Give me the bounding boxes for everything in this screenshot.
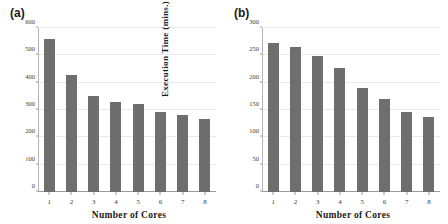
y-tick-label: 300 [249,18,259,25]
y-tick-label: 300 [25,100,35,107]
figure-two-panel-bar-charts: (a) Execution Time (s) 01002003004005006… [0,0,448,224]
x-tick-label: 7 [405,198,409,206]
x-tick-mark [273,192,274,195]
y-tick-label: 200 [25,127,35,134]
bar [401,112,412,192]
x-axis-title-b: Number of Cores [264,210,442,220]
x-tick-label: 2 [294,198,298,206]
panel-b: (b) Execution Time (mins.) 0501001502002… [224,0,448,224]
y-tick-label: 250 [249,45,259,52]
x-tick-mark [71,192,72,195]
y-axis-title-b: Execution Time (mins.) [160,0,174,124]
x-tick-mark [406,192,407,195]
x-tick-mark [138,192,139,195]
x-tick-label: 4 [114,198,118,206]
x-tick-mark [295,192,296,195]
y-tick-label: 150 [249,100,259,107]
x-tick-label: 7 [181,198,185,206]
x-tick-label: 8 [427,198,431,206]
x-tick-mark [428,192,429,195]
y-tick-label: 50 [253,154,260,161]
bars-b: 12345678 [262,28,440,192]
bar [110,102,121,192]
x-tick-mark [115,192,116,195]
bar [334,68,345,192]
bar-group: 1 [38,28,60,192]
bar [133,104,144,192]
y-tick-label: 600 [25,18,35,25]
bars-a: 12345678 [38,28,216,192]
x-tick-mark [339,192,340,195]
bar [199,119,210,192]
x-tick-label: 8 [203,198,207,206]
bar-group: 3 [83,28,105,192]
y-tick-label: 100 [249,127,259,134]
x-tick-label: 6 [159,198,163,206]
panel-label-a: (a) [10,6,25,20]
x-tick-mark [182,192,183,195]
y-tick-label: 100 [25,154,35,161]
y-tick-label: 0 [32,182,35,189]
x-tick-mark [93,192,94,195]
x-tick-mark [384,192,385,195]
plot-area-a: 0100200300400500600 12345678 [38,28,216,192]
bar-group: 2 [60,28,82,192]
x-tick-label: 1 [47,198,51,206]
bar [268,43,279,192]
x-axis-title-a: Number of Cores [40,210,218,220]
bar [155,112,166,192]
bar-group: 8 [194,28,216,192]
y-tick-label: 200 [249,72,259,79]
x-tick-label: 5 [360,198,364,206]
y-tick-label: 500 [25,45,35,52]
y-tick-label: 400 [25,72,35,79]
bar-group: 7 [172,28,194,192]
bar-group: 5 [127,28,149,192]
bar [312,56,323,192]
x-tick-label: 3 [316,198,320,206]
bar [88,96,99,192]
x-tick-label: 6 [383,198,387,206]
bar-group: 6 [373,28,395,192]
bar [66,75,77,192]
x-tick-label: 3 [92,198,96,206]
x-tick-mark [204,192,205,195]
bar [357,88,368,192]
bar [44,39,55,192]
bar [290,47,301,192]
x-tick-mark [317,192,318,195]
bar-group: 8 [418,28,440,192]
x-tick-mark [49,192,50,195]
bar-group: 1 [262,28,284,192]
bar-group: 3 [307,28,329,192]
bar-group: 4 [329,28,351,192]
panel-label-b: (b) [234,6,249,20]
bar-group: 5 [351,28,373,192]
x-tick-label: 2 [70,198,74,206]
plot-area-b: 050100150200250300 12345678 [262,28,440,192]
y-tick-label: 0 [256,182,259,189]
bar-group: 2 [284,28,306,192]
x-tick-label: 5 [136,198,140,206]
x-tick-label: 1 [271,198,275,206]
x-tick-mark [160,192,161,195]
x-tick-mark [362,192,363,195]
panel-a: (a) Execution Time (s) 01002003004005006… [0,0,224,224]
bar-group: 7 [396,28,418,192]
bar-group: 4 [105,28,127,192]
bar [379,99,390,192]
x-tick-label: 4 [338,198,342,206]
bar [177,115,188,192]
bar [423,117,434,192]
